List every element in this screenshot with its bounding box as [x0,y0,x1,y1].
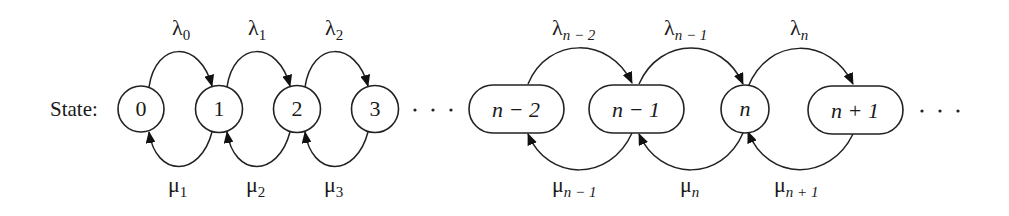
arc-mu-3 [305,132,368,167]
arc-mu-n [639,133,743,170]
death-arcs [149,132,853,170]
birth-rate-labels: λ0 λ1 λ2 λn − 2 λn − 1 λn [172,15,808,43]
ellipsis-middle [413,108,452,111]
birth-death-diagram: State: 0 1 2 3 [0,0,1009,216]
arc-mu-2 [227,132,290,167]
state-node-n[interactable]: n [721,85,769,133]
state-label: n − 2 [492,97,540,122]
state-node-3[interactable]: 3 [352,86,399,133]
rate-label-lambda-n-1: λn − 1 [664,15,707,43]
arc-mu-n-1 [528,133,632,170]
rate-label-lambda-0: λ0 [172,15,190,43]
state-prefix-label: State: [50,97,98,121]
arc-lambda-1 [227,52,290,87]
state-node-0[interactable]: 0 [118,86,164,132]
arc-lambda-n [748,48,853,87]
rate-label-lambda-1: λ1 [248,15,266,43]
arc-lambda-0 [149,52,212,87]
state-label: n − 1 [612,97,660,122]
rate-label-mu-n-1: μn − 1 [552,172,596,200]
death-rate-labels: μ1 μ2 μ3 μn − 1 μn μn + 1 [168,172,818,200]
state-label: n + 1 [831,98,879,123]
rate-label-mu-2: μ2 [246,172,265,200]
state-label: 2 [292,96,303,121]
birth-arcs [149,48,853,87]
arc-lambda-n-1 [639,48,743,84]
rate-label-lambda-2: λ2 [325,15,343,43]
state-node-n-minus-1[interactable]: n − 1 [589,85,684,133]
state-node-1[interactable]: 1 [196,86,243,133]
ellipsis-end [920,109,959,112]
state-node-2[interactable]: 2 [274,86,321,133]
rate-label-lambda-n-2: λn − 2 [552,15,596,43]
rate-label-mu-3: μ3 [324,172,343,200]
arc-lambda-n-2 [528,48,632,84]
arc-mu-1 [149,132,212,167]
rate-label-lambda-n: λn [790,15,808,43]
state-node-n-minus-2[interactable]: n − 2 [469,85,564,133]
state-node-n-plus-1[interactable]: n + 1 [808,86,903,134]
arc-lambda-2 [305,52,368,87]
state-label: 1 [214,96,225,121]
rate-label-mu-n: μn [680,172,699,200]
rate-label-mu-1: μ1 [168,172,187,200]
state-nodes: 0 1 2 3 n − 2 n − 1 n [118,85,960,134]
state-label: 3 [370,96,381,121]
state-label: 0 [136,96,147,121]
rate-label-mu-n+1: μn + 1 [774,172,818,200]
arc-mu-n+1 [748,132,853,170]
state-label: n [740,96,751,121]
